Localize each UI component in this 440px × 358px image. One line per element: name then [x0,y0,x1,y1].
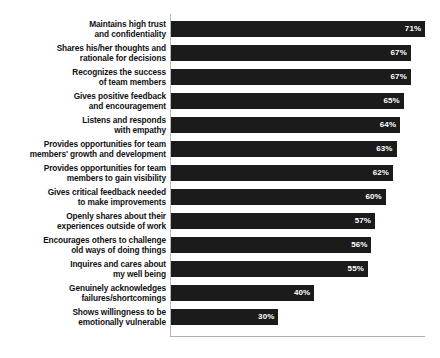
bar-category-label: Shares his/her thoughts and rationale fo… [2,43,166,63]
bar-track: 57% [171,213,440,229]
bar-value-label: 40% [294,289,314,297]
bar-value-label: 67% [391,73,411,81]
bar-category-label: Gives critical feedback needed to make i… [2,187,166,207]
bar-value-label: 62% [373,169,393,177]
bar-track: 71% [171,21,440,37]
bar-track: 67% [171,69,440,85]
bar-row: Recognizes the success of team members67… [0,69,440,85]
bar-track: 65% [171,93,440,109]
bar-value-label: 67% [391,49,411,57]
bar: 64% [171,117,400,133]
horizontal-bar-chart: Maintains high trust and confidentiality… [0,0,440,358]
bar-category-label: Openly shares about their experiences ou… [2,211,166,231]
bar-value-label: 30% [258,313,278,321]
bar-track: 55% [171,261,440,277]
bar-row: Listens and responds with empathy64% [0,117,440,133]
plot-area: Maintains high trust and confidentiality… [0,0,440,358]
bar: 30% [171,309,278,325]
bar: 67% [171,45,411,61]
bar: 62% [171,165,393,181]
bar-rows: Maintains high trust and confidentiality… [0,21,440,333]
bar-row: Shows willingness to be emotionally vuln… [0,309,440,325]
bar-track: 64% [171,117,440,133]
bar-row: Gives positive feedback and encouragemen… [0,93,440,109]
bar-track: 30% [171,309,440,325]
bar-track: 40% [171,285,440,301]
bar: 63% [171,141,397,157]
bar-row: Maintains high trust and confidentiality… [0,21,440,37]
bar-category-label: Provides opportunities for team members'… [2,139,166,159]
bar: 57% [171,213,375,229]
bar-track: 63% [171,141,440,157]
bar-value-label: 55% [348,265,368,273]
bar-value-label: 57% [355,217,375,225]
x-axis-baseline [170,336,425,337]
bar-category-label: Shows willingness to be emotionally vuln… [2,307,166,327]
bar: 67% [171,69,411,85]
bar-row: Provides opportunities for team members'… [0,141,440,157]
bar-value-label: 63% [376,145,396,153]
bar: 60% [171,189,386,205]
bar-track: 62% [171,165,440,181]
bar-category-label: Genuinely acknowledges failures/shortcom… [2,283,166,303]
bar-value-label: 64% [380,121,400,129]
bar-value-label: 71% [405,25,425,33]
bar-row: Provides opportunities for team members … [0,165,440,181]
bar-category-label: Listens and responds with empathy [2,115,166,135]
bar-category-label: Inquires and cares about my well being [2,259,166,279]
bar: 71% [171,21,425,37]
bar-row: Openly shares about their experiences ou… [0,213,440,229]
bar-track: 56% [171,237,440,253]
bar: 65% [171,93,404,109]
bar-track: 67% [171,45,440,61]
bar: 56% [171,237,371,253]
bar-row: Shares his/her thoughts and rationale fo… [0,45,440,61]
bar-row: Genuinely acknowledges failures/shortcom… [0,285,440,301]
bar-category-label: Provides opportunities for team members … [2,163,166,183]
bar-value-label: 60% [365,193,385,201]
bar-category-label: Recognizes the success of team members [2,67,166,87]
bar-category-label: Gives positive feedback and encouragemen… [2,91,166,111]
bar-row: Encourages others to challenge old ways … [0,237,440,253]
bar-row: Gives critical feedback needed to make i… [0,189,440,205]
bar-category-label: Encourages others to challenge old ways … [2,235,166,255]
bar-value-label: 65% [383,97,403,105]
bar: 55% [171,261,368,277]
bar-track: 60% [171,189,440,205]
bar-category-label: Maintains high trust and confidentiality [2,19,166,39]
bar: 40% [171,285,314,301]
bar-row: Inquires and cares about my well being55… [0,261,440,277]
bar-value-label: 56% [351,241,371,249]
